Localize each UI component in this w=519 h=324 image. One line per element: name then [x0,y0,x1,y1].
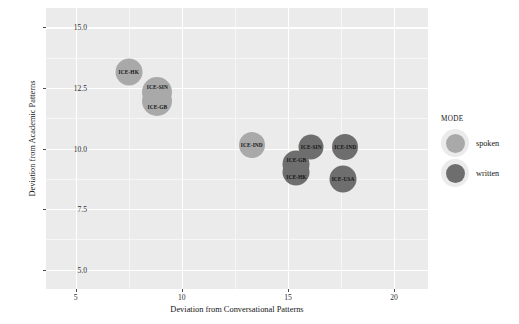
gridline-minor-horizontal [46,118,428,119]
x-axis-tick-mark [394,289,395,292]
gridline-major-horizontal [46,88,428,89]
gridline-major-vertical [182,8,183,289]
y-axis-tick-label: 12.5 [74,83,87,92]
legend-title: MODE [441,115,519,123]
x-axis-tick-label: 15 [284,293,292,302]
x-axis-tick-label: 10 [178,293,186,302]
y-axis-tick-label: 5.0 [78,265,88,274]
gridline-minor-horizontal [46,179,428,180]
y-axis-tick-mark [43,209,46,210]
x-axis-tick-label: 5 [74,293,78,302]
y-axis-label: Deviation from Academic Patterns [28,44,37,234]
gridline-major-vertical [288,8,289,289]
x-axis-tick-mark [76,289,77,292]
legend-item-spoken[interactable]: spoken [441,128,519,158]
legend-dot-icon [446,134,465,153]
y-axis-tick-mark [43,88,46,89]
x-axis-tick-mark [182,289,183,292]
legend-item-label: written [476,169,499,178]
legend-items: spokenwritten [441,128,519,188]
gridline-minor-horizontal [46,58,428,59]
legend-item-written[interactable]: written [441,158,519,188]
data-point-ice-usa-written[interactable] [330,165,357,192]
legend-key-swatch [441,159,469,187]
gridline-major-horizontal [46,270,428,271]
x-axis-label: Deviation from Conversational Patterns [46,305,428,314]
x-axis-tick-mark [288,289,289,292]
y-axis-tick-label: 7.5 [78,205,88,214]
y-axis-tick-label: 15.0 [74,23,87,32]
y-axis-tick-mark [43,149,46,150]
y-axis-tick-label: 10.0 [74,144,87,153]
gridline-major-horizontal [46,27,428,28]
data-point-ice-gb-spoken[interactable] [142,86,172,116]
plot-panel: ICE-HKICE-SINICE-GBICE-INDICE-SINICE-IND… [46,8,428,289]
legend-dot-icon [446,164,465,183]
y-axis-tick-mark [43,270,46,271]
data-point-ice-ind-spoken[interactable] [239,132,265,158]
legend: MODE spokenwritten [441,115,519,188]
chart-root: ICE-HKICE-SINICE-GBICE-INDICE-SINICE-IND… [0,0,519,324]
gridline-major-vertical [394,8,395,289]
gridline-major-horizontal [46,149,428,150]
y-axis-tick-mark [43,27,46,28]
gridline-major-horizontal [46,209,428,210]
data-point-ice-ind-written[interactable] [332,134,358,160]
data-point-ice-hk-written[interactable] [283,158,310,185]
x-axis-tick-label: 20 [390,293,398,302]
legend-item-label: spoken [476,139,499,148]
legend-key-swatch [441,129,469,157]
gridline-minor-horizontal [46,239,428,240]
data-point-ice-hk-spoken[interactable] [115,59,142,86]
